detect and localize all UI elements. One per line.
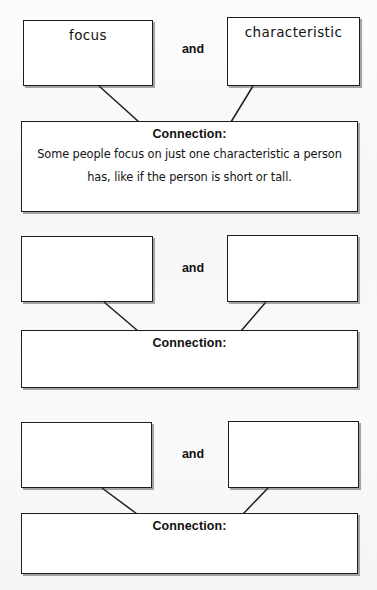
term-box-left-1[interactable]: focus bbox=[23, 20, 153, 86]
connection-box-2[interactable]: Connection: bbox=[21, 330, 358, 388]
term-box-right-2[interactable] bbox=[227, 235, 358, 302]
connection-label-1: Connection: bbox=[22, 122, 357, 141]
term-text-left-2 bbox=[22, 237, 152, 243]
conjunction-label-2: and bbox=[173, 261, 213, 275]
term-box-left-3[interactable] bbox=[21, 422, 152, 488]
term-text-right-2 bbox=[228, 236, 357, 242]
term-text-right-3 bbox=[229, 422, 358, 428]
term-box-right-1[interactable]: characteristic bbox=[227, 17, 360, 86]
connection-label-2: Connection: bbox=[22, 331, 357, 350]
conjunction-label-1: and bbox=[173, 42, 213, 56]
term-box-left-2[interactable] bbox=[21, 236, 153, 302]
conjunction-label-3: and bbox=[173, 447, 213, 461]
term-text-right-1: characteristic bbox=[228, 18, 359, 40]
connection-box-1[interactable]: Connection: Some people focus on just on… bbox=[21, 121, 358, 212]
term-box-right-3[interactable] bbox=[228, 421, 359, 488]
connection-text-1: Some people focus on just one characteri… bbox=[22, 141, 357, 190]
term-text-left-1: focus bbox=[24, 21, 152, 43]
term-text-left-3 bbox=[22, 423, 151, 429]
connection-box-3[interactable]: Connection: bbox=[21, 513, 358, 574]
worksheet: focus and characteristic Connection: Som… bbox=[0, 0, 377, 590]
connection-label-3: Connection: bbox=[22, 514, 357, 533]
